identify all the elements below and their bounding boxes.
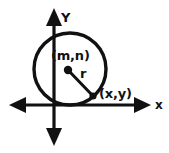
circle-point-label: (x,y) [99,87,132,100]
circle-point-dot [89,92,96,99]
arrow-left-icon [9,97,26,113]
x-axis-label: x [155,99,163,111]
arrow-down-icon [46,128,62,146]
circle-coordinate-diagram: Y x (m,n) r (x,y) [0,0,169,153]
arrow-up-icon [46,8,62,26]
arrow-right-icon [134,97,151,113]
y-axis-label: Y [61,11,70,24]
center-point-label: (m,n) [51,49,90,62]
radius-label: r [80,67,86,80]
center-point-dot [64,66,72,74]
